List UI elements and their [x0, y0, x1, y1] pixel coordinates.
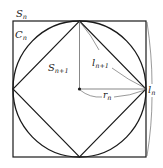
label-inner-square: Sn+1: [48, 62, 69, 75]
label-circle: Cn: [15, 29, 27, 42]
label-inner-side: ln+1: [92, 57, 109, 70]
label-outer-square: Sn: [16, 8, 27, 21]
radius-brace: [80, 90, 145, 97]
label-radius: rn: [103, 90, 112, 102]
geometry-diagram: Sn Cn Sn+1 ln+1 rn ln: [0, 0, 163, 168]
label-outer-side: ln: [148, 84, 155, 97]
